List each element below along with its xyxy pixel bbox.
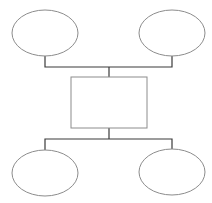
center-rectangle[interactable] xyxy=(71,77,147,128)
ellipse-bottom-left[interactable] xyxy=(12,150,78,196)
ellipse-bottom-right[interactable] xyxy=(139,149,205,195)
connector-bottom-bracket xyxy=(45,139,172,150)
ellipse-top-left[interactable] xyxy=(12,10,78,56)
node-bottom-right[interactable] xyxy=(139,149,205,195)
diagram-canvas xyxy=(0,0,212,203)
node-bottom-left[interactable] xyxy=(12,150,78,196)
node-top-right[interactable] xyxy=(139,10,205,56)
connector-top-bracket xyxy=(45,56,172,67)
ellipse-top-right[interactable] xyxy=(139,10,205,56)
node-center[interactable] xyxy=(71,77,147,128)
node-top-left[interactable] xyxy=(12,10,78,56)
